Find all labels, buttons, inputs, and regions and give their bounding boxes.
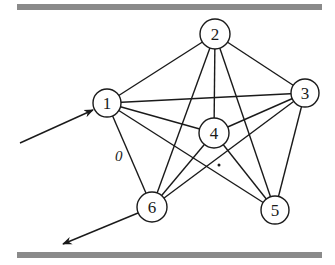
- nodes: 123456: [93, 19, 319, 224]
- edge-1-2: [107, 34, 215, 103]
- dot-mark: [218, 164, 221, 167]
- node-label: 1: [103, 94, 112, 113]
- top-bar: [17, 4, 322, 10]
- edge-2-3: [215, 34, 305, 93]
- arrows: [20, 110, 138, 244]
- graph-diagram: 123456 0: [0, 0, 335, 265]
- edge-3-5: [275, 93, 305, 210]
- edge-1-3: [107, 93, 305, 103]
- output-arrow: [63, 213, 138, 244]
- node-6: 6: [137, 192, 167, 222]
- node-label: 2: [211, 25, 220, 44]
- node-label: 6: [148, 198, 157, 217]
- bottom-bar: [17, 252, 322, 258]
- node-1: 1: [93, 89, 121, 117]
- node-label: 5: [271, 201, 280, 220]
- node-4: 4: [199, 118, 229, 148]
- edge-1-6: [107, 103, 152, 207]
- edge-1-5: [107, 103, 275, 210]
- edge-label-zero: 0: [115, 148, 123, 164]
- node-3: 3: [291, 79, 319, 107]
- input-arrow: [20, 110, 93, 143]
- graph-svg: 123456 0: [0, 0, 335, 265]
- edge-1-4: [107, 103, 214, 133]
- node-5: 5: [261, 196, 289, 224]
- node-label: 4: [210, 124, 219, 143]
- edge-3-6: [152, 93, 305, 207]
- node-2: 2: [200, 19, 230, 49]
- node-label: 3: [301, 84, 310, 103]
